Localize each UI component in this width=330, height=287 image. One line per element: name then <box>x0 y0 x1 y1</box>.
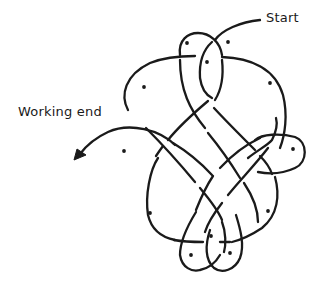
dot <box>266 209 270 213</box>
start-lead-line <box>215 20 260 40</box>
dot <box>122 149 126 153</box>
strand-left-inner-c <box>244 183 258 222</box>
dot <box>205 60 209 64</box>
dot <box>226 40 230 44</box>
dot <box>228 251 232 255</box>
top-right-strand <box>200 42 212 98</box>
dot <box>142 85 146 89</box>
right-side-curve <box>232 177 277 242</box>
dot <box>209 234 213 238</box>
dot <box>268 81 272 85</box>
strand-diag-b <box>156 146 163 156</box>
dot <box>189 253 193 257</box>
dot <box>148 211 152 215</box>
dot <box>185 41 189 45</box>
strand-left-inner-a <box>180 60 205 128</box>
strand-right-inner-c <box>260 156 272 174</box>
weave-3b <box>196 176 213 210</box>
strand-right-inner-a <box>215 60 223 100</box>
dot <box>291 147 295 151</box>
upper-arc-left <box>124 56 195 110</box>
left-lobe <box>147 158 175 240</box>
bottom-center-strand <box>222 222 225 252</box>
knot-diagram <box>0 0 330 287</box>
weave-2a <box>173 143 212 175</box>
strand-left-inner-b <box>208 133 240 178</box>
bottom-bar-left <box>174 240 203 242</box>
right-lobe-inner <box>248 118 277 158</box>
strand-diag-a <box>168 101 208 140</box>
